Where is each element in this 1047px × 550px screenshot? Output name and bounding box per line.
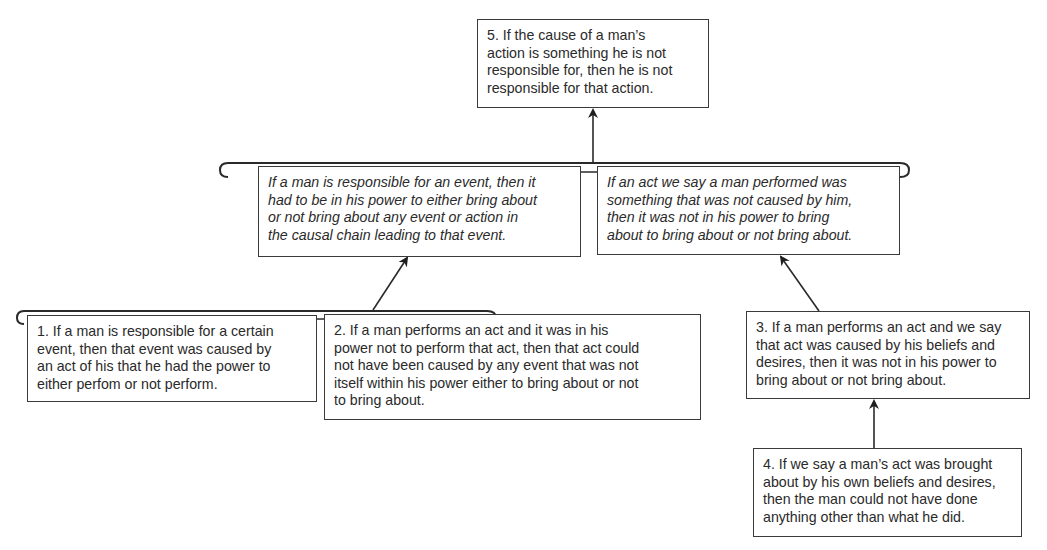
node-4-line: then the man could not have done (763, 491, 1012, 509)
node-4-line: 4. If we say a man’s act was brought (763, 456, 1012, 474)
node-3-line: bring about or not bring about. (756, 372, 1020, 390)
node-5-line: action is something he is not (487, 45, 699, 63)
node-2-line: to bring about. (334, 392, 691, 410)
node-5-line: responsible for that action. (487, 80, 699, 98)
node-A-intermediate: If a man is responsible for an event, th… (258, 166, 581, 257)
node-1-premise: 1. If a man is responsible for a certain… (27, 315, 317, 402)
node-3-line: 3. If a man performs an act and we say (756, 319, 1020, 337)
node-2-line: itself within his power either to bring … (334, 375, 691, 393)
node-5-line: responsible for, then he is not (487, 62, 699, 80)
node-1-line: 1. If a man is responsible for a certain (37, 323, 307, 341)
node-A-line: If a man is responsible for an event, th… (268, 174, 571, 192)
node-2-line: not have been caused by any event that w… (334, 357, 691, 375)
node-4-premise: 4. If we say a man’s act was brought abo… (753, 448, 1022, 537)
node-A-line: or not bring about any event or action i… (268, 209, 571, 227)
node-2-premise: 2. If a man performs an act and it was i… (324, 314, 701, 420)
node-B-intermediate: If an act we say a man performed was som… (597, 166, 900, 255)
node-5-line: 5. If the cause of a man’s (487, 27, 699, 45)
node-B-line: If an act we say a man performed was (607, 174, 890, 192)
node-5-conclusion: 5. If the cause of a man’s action is som… (477, 19, 709, 108)
node-3-line: desires, then it was not in his power to (756, 354, 1020, 372)
node-A-line: the causal chain leading to that event. (268, 227, 571, 245)
arrow-3-to-B (781, 257, 819, 311)
node-B-line: then it was not in his power to bring (607, 209, 890, 227)
node-1-line: either perfom or not perform. (37, 376, 307, 394)
arrow-to-A (373, 258, 407, 310)
node-B-line: about to bring about or not bring about. (607, 227, 890, 245)
node-A-line: had to be in his power to either bring a… (268, 192, 571, 210)
node-1-line: event, then that event was caused by (37, 341, 307, 359)
node-4-line: about by his own beliefs and desires, (763, 474, 1012, 492)
node-2-line: power not to perform that act, then that… (334, 340, 691, 358)
node-2-line: 2. If a man performs an act and it was i… (334, 322, 691, 340)
node-B-line: something that was not caused by him, (607, 192, 890, 210)
node-4-line: anything other than what he did. (763, 509, 1012, 527)
node-3-line: that act was caused by his beliefs and (756, 337, 1020, 355)
node-1-line: an act of his that he had the power to (37, 358, 307, 376)
node-3-premise: 3. If a man performs an act and we say t… (746, 311, 1030, 399)
